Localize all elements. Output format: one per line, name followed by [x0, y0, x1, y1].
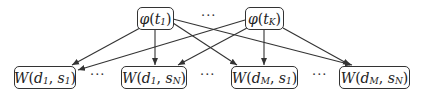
- node-func: W: [341, 71, 355, 85]
- node-w-d1-sn: W(d1, sN): [121, 66, 187, 89]
- node-arg-a: d: [252, 71, 261, 85]
- node-arg-b: s: [165, 71, 172, 85]
- node-w-dm-s1: W(dM, s1): [231, 66, 298, 89]
- top-ellipsis: ···: [201, 8, 216, 23]
- node-sub-a: 1: [43, 77, 49, 86]
- bottom-ellipsis-2: ···: [200, 67, 215, 82]
- node-sub-a: M: [370, 77, 379, 86]
- node-sub: K: [269, 18, 276, 27]
- node-sub-b: 1: [286, 77, 292, 86]
- node-arg-b: s: [58, 71, 65, 85]
- edge-phi-t1-to-w-dm-s1: [173, 23, 237, 65]
- bottom-ellipsis-3: ···: [312, 67, 327, 82]
- node-sub-b: N: [395, 77, 403, 86]
- node-func: W: [14, 71, 28, 85]
- node-arg-a: d: [361, 71, 370, 85]
- node-sub-a: M: [261, 77, 270, 86]
- node-w-d1-s1: W(d1, s1): [14, 66, 76, 89]
- node-sub: 1: [160, 18, 166, 27]
- node-arg-a: d: [34, 71, 43, 85]
- node-sub-b: 1: [65, 77, 71, 86]
- node-phi-t1: φ(t1): [137, 7, 174, 30]
- node-sub-a: 1: [151, 77, 157, 86]
- node-arg-a: d: [142, 71, 151, 85]
- node-arg-b: s: [388, 71, 395, 85]
- node-func: W: [232, 71, 246, 85]
- node-func: W: [122, 71, 136, 85]
- node-func: φ: [248, 12, 258, 26]
- node-w-dm-sn: W(dM, sN): [339, 66, 410, 89]
- edge-phi-tk-to-w-dm-sn: [283, 28, 350, 65]
- bottom-ellipsis-1: ···: [90, 67, 105, 82]
- edge-phi-t1-to-w-d1-s1: [72, 28, 140, 65]
- node-arg-b: s: [279, 71, 286, 85]
- node-phi-tk: φ(tK): [245, 7, 284, 30]
- node-func: φ: [139, 12, 149, 26]
- node-sub-b: N: [173, 77, 181, 86]
